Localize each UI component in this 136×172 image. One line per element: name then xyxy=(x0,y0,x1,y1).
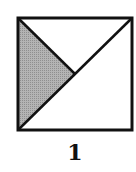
figure-caption: 1 xyxy=(0,140,136,164)
diagram-figure: 1 xyxy=(0,0,136,172)
shaded-triangle xyxy=(18,18,75,130)
